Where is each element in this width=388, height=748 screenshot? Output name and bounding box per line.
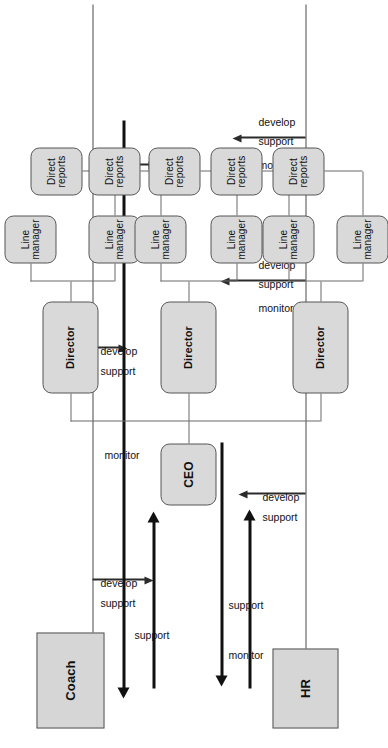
hr-branch-3-arrowhead — [232, 134, 241, 142]
hr-branch-1-arrowhead — [238, 490, 247, 498]
node-director-2[interactable]: Director — [160, 301, 216, 393]
dr-5-drop — [324, 170, 362, 171]
node-direct-reports-2-label: Direct reports — [104, 155, 125, 187]
director-2-out — [188, 281, 189, 301]
node-line-manager-5-label: Line manager — [278, 219, 299, 259]
hr-to-ceo-support-label: support — [228, 598, 263, 610]
lm-6-stub — [362, 263, 363, 281]
lm-3-stub — [160, 263, 161, 281]
coach-to-ceo-support-line — [152, 520, 155, 688]
hr-branch-1-label-develop: develop — [262, 490, 299, 502]
lm-4-stub — [236, 263, 237, 281]
node-line-manager-5[interactable]: Line manager — [262, 215, 314, 263]
node-direct-reports-2[interactable]: Direct reports — [88, 147, 140, 195]
coach-branch-2-label-support: support — [100, 364, 135, 376]
ceo-to-hr-monitor-arrowhead — [215, 675, 227, 686]
node-direct-reports-1[interactable]: Direct reports — [30, 147, 82, 195]
ceo-to-directors-bus — [70, 420, 320, 421]
node-line-manager-4[interactable]: Line manager — [210, 215, 262, 263]
node-direct-reports-3-label: Direct reports — [164, 155, 185, 187]
node-line-manager-6[interactable]: Line manager — [336, 215, 388, 263]
coach-to-ceo-support-label: support — [134, 628, 169, 640]
dr-5-link — [362, 171, 363, 215]
hr-branch-1-label-support: support — [262, 510, 297, 522]
node-line-manager-6-label: Line manager — [352, 219, 373, 259]
coach-branch-1-label-support: support — [100, 596, 135, 608]
director-1-bus — [30, 280, 114, 281]
lm-2-stub — [114, 263, 115, 281]
node-ceo[interactable]: CEO — [160, 443, 216, 505]
node-line-manager-2[interactable]: Line manager — [88, 215, 140, 263]
director-3-bus — [288, 280, 362, 281]
coach-branch-1-label-develop: develop — [100, 576, 137, 588]
lm-1-stub — [30, 263, 31, 281]
node-coach[interactable]: Coach — [36, 632, 104, 728]
node-director-1[interactable]: Director — [42, 301, 98, 393]
node-direct-reports-4-label: Direct reports — [226, 155, 247, 187]
node-line-manager-1[interactable]: Line manager — [4, 215, 56, 263]
hr-to-coach-monitor-label: monitor — [104, 448, 139, 460]
ceo-to-directors-stub — [188, 421, 189, 443]
director-3-out — [320, 281, 321, 301]
hr-to-ceo-support-arrowhead — [243, 509, 255, 520]
node-direct-reports-4[interactable]: Direct reports — [210, 147, 262, 195]
ceo-to-hr-monitor-label: monitor — [228, 648, 263, 660]
node-direct-reports-3[interactable]: Direct reports — [148, 147, 200, 195]
coach-to-ceo-support-arrowhead — [147, 511, 159, 522]
director-1-out — [70, 281, 71, 301]
hr-branch-3-label-develop: develop — [258, 115, 295, 127]
node-direct-reports-5[interactable]: Direct reports — [272, 147, 324, 195]
director-2-bus — [160, 280, 236, 281]
director-1-stub — [70, 393, 71, 421]
director-2-stub — [188, 393, 189, 421]
node-line-manager-4-label: Line manager — [226, 219, 247, 259]
node-director-3[interactable]: Director — [292, 301, 348, 393]
lm-5-stub — [288, 263, 289, 281]
hr-branch-3-label-support: support — [258, 134, 293, 146]
hr-branch-2-label-monitor: monitor — [258, 301, 293, 313]
node-direct-reports-1-label: Direct reports — [46, 155, 67, 187]
director-3-stub — [320, 393, 321, 421]
node-line-manager-2-label: Line manager — [104, 219, 125, 259]
node-direct-reports-5-label: Direct reports — [288, 155, 309, 187]
node-line-manager-3[interactable]: Line manager — [134, 215, 186, 263]
hr-to-coach-monitor-arrowhead — [117, 687, 129, 698]
node-line-manager-3-label: Line manager — [150, 219, 171, 259]
coach-branch-2-label-develop: develop — [100, 344, 137, 356]
node-hr[interactable]: HR — [272, 648, 338, 728]
node-line-manager-1-label: Line manager — [20, 219, 41, 259]
ceo-to-hr-monitor-line — [220, 442, 223, 676]
hr-to-coach-monitor-line — [122, 120, 125, 688]
